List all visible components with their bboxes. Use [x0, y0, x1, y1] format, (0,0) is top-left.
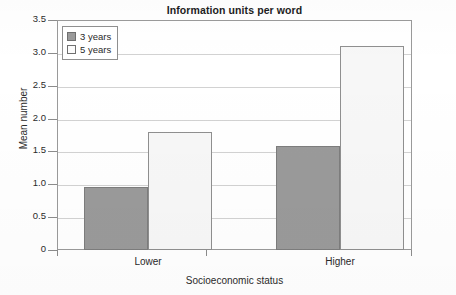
y-axis-tick — [48, 151, 57, 152]
y-axis-tick-label: 1.0 — [4, 177, 46, 188]
x-axis-title: Socioeconomic status — [57, 275, 412, 286]
legend-label: 3 years — [80, 31, 111, 42]
legend-item: 5 years — [67, 43, 111, 56]
y-axis-tick-label: 0.5 — [4, 210, 46, 221]
legend-item: 3 years — [67, 30, 111, 43]
y-axis-tick — [48, 184, 57, 185]
bar-lower-5-years — [148, 132, 212, 250]
x-axis-tick — [411, 250, 412, 256]
bar-higher-3-years — [276, 146, 340, 250]
y-axis-tick — [48, 217, 57, 218]
y-axis-tick — [48, 119, 57, 120]
y-axis-tick-label: 3.5 — [4, 13, 46, 24]
legend-swatch-3-years — [67, 32, 76, 41]
x-axis-tick — [206, 250, 207, 256]
y-axis-tick — [48, 20, 57, 21]
y-axis-tick — [48, 86, 57, 87]
chart-title: Information units per word — [57, 4, 412, 16]
y-axis-tick — [48, 53, 57, 54]
bar-chart-figure: Information units per word Mean number 0… — [0, 0, 456, 295]
legend-label: 5 years — [80, 44, 111, 55]
y-axis-tick-label: 2.0 — [4, 112, 46, 123]
x-axis-tick-label: Higher — [290, 256, 390, 267]
y-axis-tick-label: 1.5 — [4, 144, 46, 155]
bar-lower-3-years — [84, 187, 148, 250]
x-axis-tick — [57, 250, 58, 256]
bar-higher-5-years — [340, 46, 404, 250]
y-axis-tick-label: 2.5 — [4, 79, 46, 90]
chart-legend: 3 years 5 years — [62, 26, 118, 60]
x-axis-tick-label: Lower — [98, 256, 198, 267]
y-axis-tick — [48, 250, 57, 251]
y-axis-tick-label: 3.0 — [4, 46, 46, 57]
y-axis-tick-label: 0 — [4, 243, 46, 254]
legend-swatch-5-years — [67, 45, 76, 54]
